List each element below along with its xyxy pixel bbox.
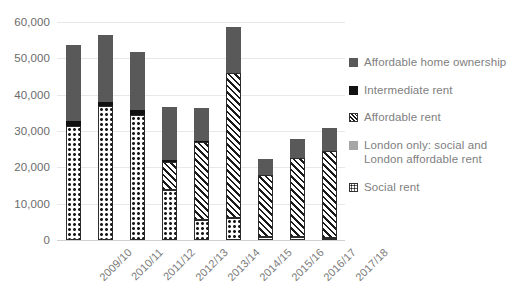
chart-legend: Affordable home ownershipIntermediate re… [349, 55, 517, 207]
legend-swatch-inter-icon [349, 86, 358, 95]
bar-group[interactable] [66, 22, 81, 240]
legend-item[interactable]: London only: social and London affordabl… [349, 138, 517, 167]
legend-swatch-afford-icon [349, 113, 358, 122]
bar-group[interactable] [162, 22, 177, 240]
bar-segment-afford[interactable] [194, 142, 209, 220]
legend-item-label: Affordable rent [364, 110, 441, 125]
legend-item[interactable]: Intermediate rent [349, 83, 517, 98]
legend-item-label: Intermediate rent [364, 83, 453, 98]
bar-group[interactable] [258, 22, 273, 240]
bar-segment-aho[interactable] [98, 35, 113, 101]
y-axis-tick-label: 30,000 [14, 125, 50, 137]
bar-segment-aho[interactable] [226, 27, 241, 72]
y-axis-tick-label: 40,000 [14, 89, 50, 101]
axis-baseline [57, 240, 345, 241]
stacked-bar[interactable] [322, 22, 337, 240]
bar-segment-afford[interactable] [226, 73, 241, 218]
bar-segment-afford[interactable] [162, 162, 177, 190]
x-axis-tick-label: 2015/16 [289, 246, 326, 283]
bar-segment-aho[interactable] [162, 107, 177, 161]
bar-segment-inter[interactable] [130, 110, 145, 115]
stacked-bar[interactable] [98, 22, 113, 240]
bar-segment-aho[interactable] [258, 159, 273, 175]
stacked-bar[interactable] [194, 22, 209, 240]
legend-swatch-london-icon [349, 141, 358, 150]
bar-segment-social[interactable] [66, 126, 81, 240]
bar-segment-aho[interactable] [290, 139, 305, 158]
bar-segment-social[interactable] [162, 190, 177, 240]
bars-layer [57, 22, 345, 240]
bar-segment-inter[interactable] [98, 102, 113, 106]
x-axis: 2009/102010/112011/122012/132013/142014/… [57, 242, 345, 300]
bar-segment-social[interactable] [226, 218, 241, 240]
legend-swatch-aho-icon [349, 58, 358, 67]
x-axis-tick-label: 2016/17 [321, 246, 358, 283]
bar-group[interactable] [290, 22, 305, 240]
bar-segment-social[interactable] [322, 238, 337, 240]
y-axis-tick-label: 60,000 [14, 16, 50, 28]
stacked-bar[interactable] [290, 22, 305, 240]
stacked-bar-chart: 60,00050,00040,00030,00020,00010,0000 20… [0, 0, 520, 302]
bar-segment-aho[interactable] [322, 128, 337, 152]
x-axis-tick-label: 2013/14 [225, 246, 262, 283]
legend-item[interactable]: Social rent [349, 180, 517, 195]
bar-group[interactable] [194, 22, 209, 240]
y-axis-tick-label: 50,000 [14, 52, 50, 64]
bar-group[interactable] [130, 22, 145, 240]
x-axis-tick-label: 2012/13 [193, 246, 230, 283]
bar-segment-social[interactable] [98, 106, 113, 240]
bar-segment-social[interactable] [290, 237, 305, 240]
bar-segment-afford[interactable] [290, 158, 305, 238]
stacked-bar[interactable] [226, 22, 241, 240]
bar-segment-social[interactable] [194, 220, 209, 240]
x-axis-tick-label: 2010/11 [129, 246, 166, 283]
x-axis-tick-label: 2011/12 [161, 246, 198, 283]
y-axis-tick-label: 10,000 [14, 198, 50, 210]
bar-segment-inter[interactable] [66, 121, 81, 125]
y-axis: 60,00050,00040,00030,00020,00010,0000 [0, 22, 50, 240]
bar-segment-inter[interactable] [162, 160, 177, 161]
stacked-bar[interactable] [130, 22, 145, 240]
legend-item-label: Social rent [364, 180, 419, 195]
bar-segment-social[interactable] [258, 237, 273, 240]
x-axis-tick-label: 2014/15 [257, 246, 294, 283]
legend-item[interactable]: Affordable home ownership [349, 55, 517, 70]
bar-segment-afford[interactable] [322, 151, 337, 237]
stacked-bar[interactable] [258, 22, 273, 240]
stacked-bar[interactable] [66, 22, 81, 240]
bar-group[interactable] [322, 22, 337, 240]
legend-item[interactable]: Affordable rent [349, 110, 517, 125]
bar-segment-social[interactable] [130, 115, 145, 240]
y-axis-tick-label: 20,000 [14, 161, 50, 173]
bar-segment-inter[interactable] [194, 141, 209, 142]
bar-segment-aho[interactable] [130, 52, 145, 110]
y-axis-tick-label: 0 [44, 234, 51, 246]
bar-segment-afford[interactable] [258, 175, 273, 237]
x-axis-tick-label: 2017/18 [353, 246, 390, 283]
stacked-bar[interactable] [162, 22, 177, 240]
legend-item-label: London only: social and London affordabl… [364, 138, 517, 167]
bar-segment-aho[interactable] [66, 45, 81, 121]
x-axis-tick-label: 2009/10 [97, 246, 134, 283]
bar-segment-aho[interactable] [194, 108, 209, 141]
bar-group[interactable] [98, 22, 113, 240]
legend-swatch-social-icon [349, 183, 358, 192]
bar-group[interactable] [226, 22, 241, 240]
legend-item-label: Affordable home ownership [364, 55, 506, 70]
plot-area [57, 22, 345, 240]
